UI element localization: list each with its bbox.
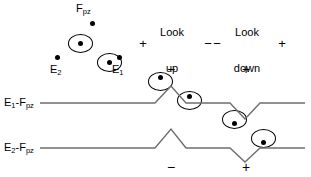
e2-electrode-dot xyxy=(55,55,60,60)
pupil-icon xyxy=(78,41,83,46)
condition-title-line1: Look xyxy=(142,26,202,38)
e2-electrode-label: E2 xyxy=(50,63,62,77)
look-down-deflection-sign-bottom: + xyxy=(238,160,254,174)
look-down-right-polarity: + xyxy=(277,37,287,50)
e1-electrode-label: E1 xyxy=(112,63,124,77)
look-up-left-polarity: + xyxy=(138,37,148,50)
eog-figure: Fpz E2 E1 Look up + − − Look down − + + xyxy=(0,0,311,177)
waveform-e1-fpz xyxy=(0,80,311,125)
fpz-electrode-dot xyxy=(90,21,95,26)
waveform-e2-fpz xyxy=(0,125,311,170)
waveform-path xyxy=(40,86,305,119)
e1-electrode-dot xyxy=(117,55,122,60)
look-down-left-polarity: − xyxy=(212,37,222,50)
look-down-deflection-sign-top: + xyxy=(238,62,254,76)
waveform-path xyxy=(40,129,305,162)
condition-title-line1: Look xyxy=(216,26,278,38)
schematic-eye-left xyxy=(68,34,93,53)
fpz-electrode-label: Fpz xyxy=(76,2,91,16)
look-up-deflection-sign-bottom: − xyxy=(163,160,179,174)
look-up-deflection-sign-top: − xyxy=(163,62,179,76)
